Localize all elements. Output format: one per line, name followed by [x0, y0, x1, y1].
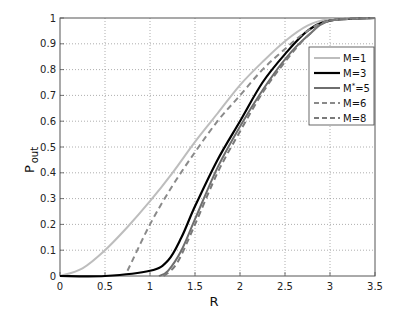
- x-tick-label: 3: [327, 281, 333, 292]
- x-tick-label: 2.5: [277, 281, 293, 292]
- y-tick-label: 0.2: [40, 219, 56, 230]
- line-chart: 00.511.522.533.500.10.20.30.40.50.60.70.…: [0, 0, 396, 319]
- x-axis-label: R: [209, 294, 218, 309]
- x-tick-label: 1: [147, 281, 153, 292]
- legend: M=1M=3M*=5M=6M=8: [309, 47, 374, 125]
- legend-label: M=1: [343, 53, 366, 64]
- y-tick-label: 0.3: [40, 193, 56, 204]
- x-tick-label: 3.5: [367, 281, 383, 292]
- y-tick-label: 0.4: [40, 167, 56, 178]
- y-tick-label: 0.1: [40, 245, 56, 256]
- y-axis-label-main: P: [22, 165, 37, 173]
- y-axis-label-sub: out: [29, 147, 40, 163]
- x-tick-label: 0.5: [97, 281, 113, 292]
- y-tick-label: 0.5: [40, 142, 56, 153]
- x-tick-label: 2: [237, 281, 243, 292]
- legend-label: M=8: [343, 113, 366, 124]
- x-tick-label: 1.5: [187, 281, 203, 292]
- legend-label: M*=5: [343, 82, 370, 94]
- y-tick-label: 1: [50, 13, 56, 24]
- y-axis-label: Pout: [22, 147, 40, 173]
- x-tick-label: 0: [57, 281, 63, 292]
- legend-label: M=6: [343, 98, 366, 109]
- y-tick-label: 0: [50, 271, 56, 282]
- y-tick-label: 0.6: [40, 116, 56, 127]
- y-tick-label: 0.9: [40, 38, 56, 49]
- y-tick-label: 0.8: [40, 64, 56, 75]
- y-tick-label: 0.7: [40, 90, 56, 101]
- svg-text:Pout: Pout: [22, 147, 40, 173]
- legend-label: M=3: [343, 68, 366, 79]
